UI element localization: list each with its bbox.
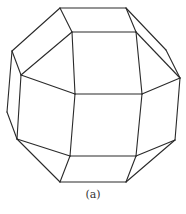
polyhedron-edge [175, 78, 180, 140]
polyhedron-edge [12, 51, 21, 75]
polyhedron-edge [21, 75, 75, 94]
polyhedron-edge [136, 32, 142, 94]
polyhedron-edge [126, 8, 136, 32]
polyhedron-edge [136, 94, 142, 156]
polyhedron-edge [126, 8, 166, 50]
polyhedron-edge [17, 75, 21, 139]
polyhedron-edge [7, 112, 17, 139]
polyhedron-edge [12, 8, 60, 51]
polyhedron-edge [72, 32, 75, 94]
polyhedron-edge [136, 140, 175, 156]
polyhedron-edge [21, 32, 72, 75]
polyhedron-edge [126, 140, 175, 182]
polyhedron-edge [142, 78, 180, 94]
polyhedron-edge [7, 51, 12, 112]
polyhedron-figure [0, 0, 186, 214]
polyhedron-edge [60, 156, 70, 182]
figure-caption: (a) [0, 188, 186, 201]
polyhedron-edge [60, 8, 72, 32]
polyhedron-edge [70, 94, 75, 156]
polyhedron-edge [136, 32, 180, 78]
polyhedron-edge [166, 50, 180, 78]
